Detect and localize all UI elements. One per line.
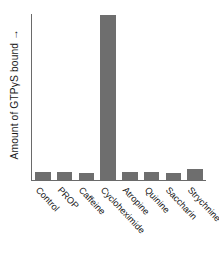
x-axis-line (31, 180, 206, 181)
x-tick-slot: PROP (54, 183, 76, 269)
x-axis-tick-labels: Control PROP Caffeine Cycloheximide Atro… (32, 183, 206, 269)
x-tick-slot: Saccharin (163, 183, 185, 269)
bar-quinine (144, 172, 160, 180)
x-tick-label-strychnine: Strychnine (186, 185, 219, 224)
x-tick-slot: Strychnine (184, 183, 206, 269)
bar-slot (141, 15, 163, 180)
y-axis-label-text: Amount of GTPγS bound (9, 43, 20, 160)
bar-chart-figure: Amount of GTPγS bound→ Control PROP Caff… (0, 0, 219, 270)
plot-area (31, 14, 206, 181)
bar-saccharin (166, 173, 182, 180)
x-tick-slot: Atropine (119, 183, 141, 269)
bar-atropine (122, 172, 138, 180)
bar-control (35, 172, 51, 179)
x-tick-slot: Caffeine (76, 183, 98, 269)
bar-prop (57, 172, 73, 180)
x-tick-slot: Control (32, 183, 54, 269)
x-tick-slot: Quinine (141, 183, 163, 269)
bar-slot (184, 15, 206, 180)
bar-cycloheximide (100, 15, 116, 180)
bar-strychnine (187, 169, 203, 180)
y-axis-label: Amount of GTPγS bound→ (9, 31, 20, 160)
x-tick-slot: Cycloheximide (97, 183, 119, 269)
bar-series (32, 15, 206, 180)
bar-slot (54, 15, 76, 180)
bar-slot (163, 15, 185, 180)
y-axis-label-container: Amount of GTPγS bound→ (0, 0, 28, 190)
bar-caffeine (79, 173, 95, 180)
bar-slot (97, 15, 119, 180)
y-axis-arrow-icon: → (9, 31, 20, 40)
bar-slot (76, 15, 98, 180)
bar-slot (32, 15, 54, 180)
bar-slot (119, 15, 141, 180)
